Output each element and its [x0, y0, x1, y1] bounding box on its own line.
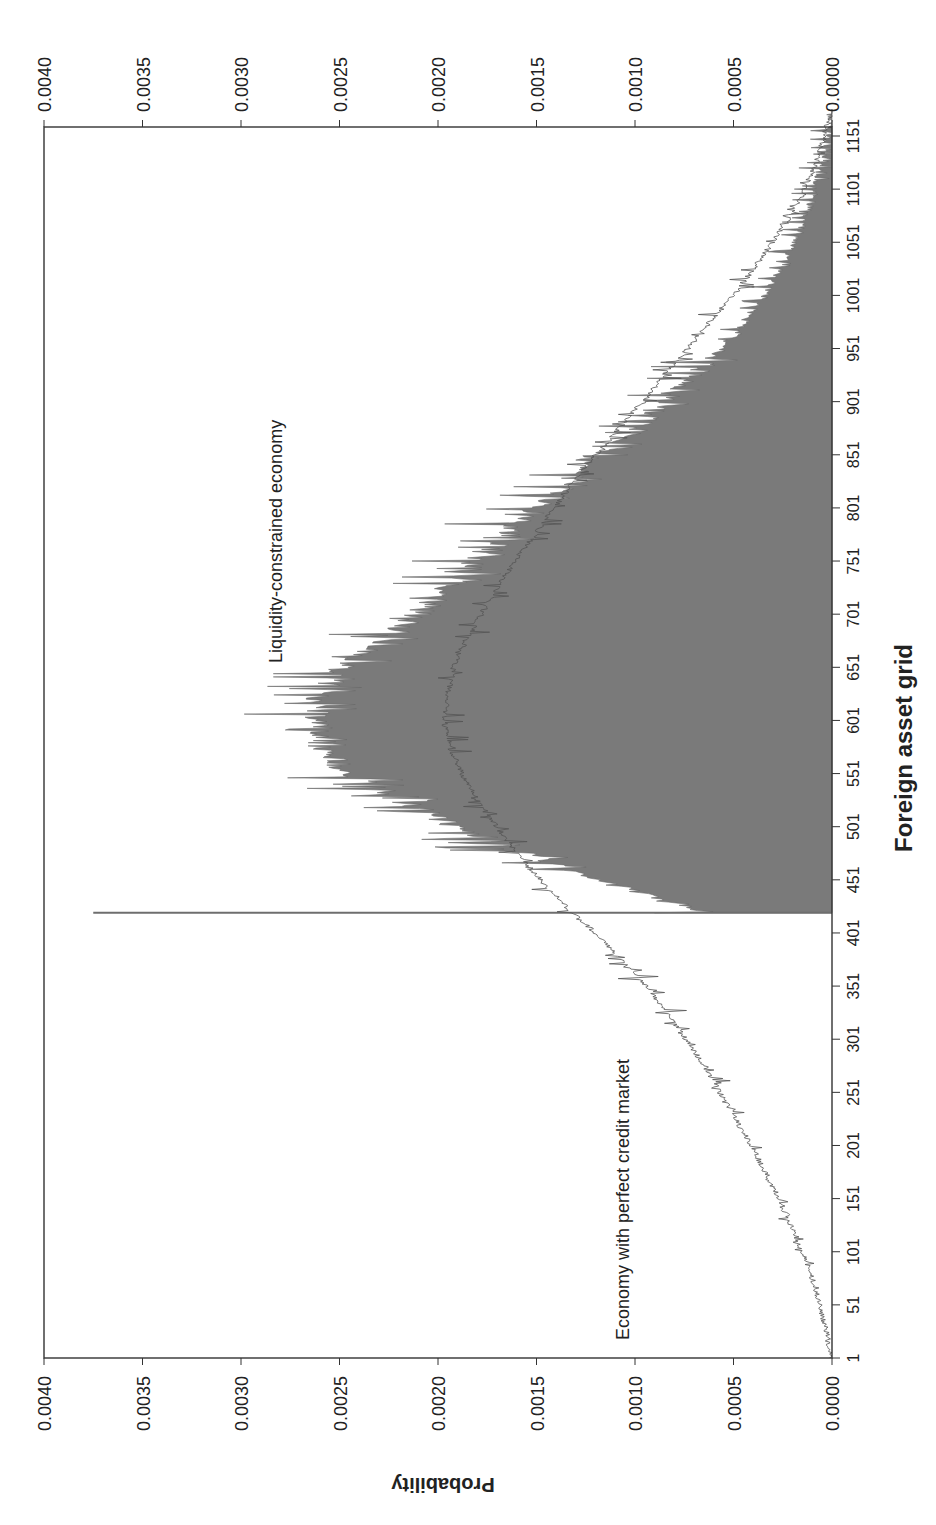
- x-tick-label: 501: [845, 813, 862, 840]
- x-axis-title: Foreign asset grid: [890, 644, 917, 852]
- y-tick-label-bottom: 0.0015: [528, 1376, 548, 1431]
- y-tick-label-bottom: 0.0025: [331, 1376, 351, 1431]
- x-tick-label: 551: [845, 760, 862, 787]
- y-tick-label-bottom: 0.0020: [429, 1376, 449, 1431]
- y-tick-label-top: 0.0010: [626, 57, 646, 112]
- x-tick-label: 451: [845, 866, 862, 893]
- x-tick-label: 651: [845, 654, 862, 681]
- y-tick-label-top: 0.0000: [823, 57, 843, 112]
- x-tick-label: 301: [845, 1026, 862, 1053]
- x-tick-label: 901: [845, 388, 862, 415]
- x-tick-label: 101: [845, 1238, 862, 1265]
- y-tick-label-top: 0.0025: [331, 57, 351, 112]
- plot-area: [93, 109, 832, 1358]
- y-tick-label-bottom: 0.0000: [823, 1376, 843, 1431]
- x-tick-label: 351: [845, 973, 862, 1000]
- y-tick-label-top: 0.0030: [232, 57, 252, 112]
- x-tick-label: 151: [845, 1185, 862, 1212]
- y-axis-title: Probability: [390, 1474, 494, 1496]
- x-tick-label: 251: [845, 1079, 862, 1106]
- x-tick-label: 1001: [845, 277, 862, 313]
- chart: 0.00000.00000.00050.00050.00100.00100.00…: [0, 0, 936, 1525]
- chart-canvas: 0.00000.00000.00050.00050.00100.00100.00…: [0, 0, 936, 1525]
- y-tick-label-top: 0.0035: [134, 57, 154, 112]
- x-tick-label: 201: [845, 1132, 862, 1159]
- x-tick-label: 51: [845, 1296, 862, 1314]
- x-tick-label: 851: [845, 441, 862, 468]
- y-tick-label-top: 0.0005: [725, 57, 745, 112]
- series-liquidity-constrained-area: [244, 109, 832, 912]
- y-tick-label-bottom: 0.0010: [626, 1376, 646, 1431]
- annotation-liquidity-constrained: Liquidity-constrained economy: [266, 420, 286, 663]
- annotation-perfect-credit-market: Economy with perfect credit market: [613, 1059, 633, 1340]
- x-tick-label: 1051: [845, 224, 862, 260]
- x-tick-label: 951: [845, 335, 862, 362]
- x-tick-label: 801: [845, 494, 862, 521]
- x-tick-label: 1: [845, 1353, 862, 1362]
- x-tick-label: 601: [845, 707, 862, 734]
- x-tick-label: 1151: [845, 119, 862, 154]
- y-tick-label-bottom: 0.0005: [725, 1376, 745, 1431]
- y-tick-label-top: 0.0040: [35, 57, 55, 112]
- y-tick-label-top: 0.0020: [429, 57, 449, 112]
- x-tick-label: 401: [845, 920, 862, 947]
- y-tick-label-bottom: 0.0030: [232, 1376, 252, 1431]
- y-tick-label-bottom: 0.0035: [134, 1376, 154, 1431]
- x-tick-label: 701: [845, 601, 862, 628]
- x-tick-label: 751: [845, 548, 862, 575]
- y-tick-label-top: 0.0015: [528, 57, 548, 112]
- y-tick-label-bottom: 0.0040: [35, 1376, 55, 1431]
- x-tick-label: 1101: [845, 172, 862, 207]
